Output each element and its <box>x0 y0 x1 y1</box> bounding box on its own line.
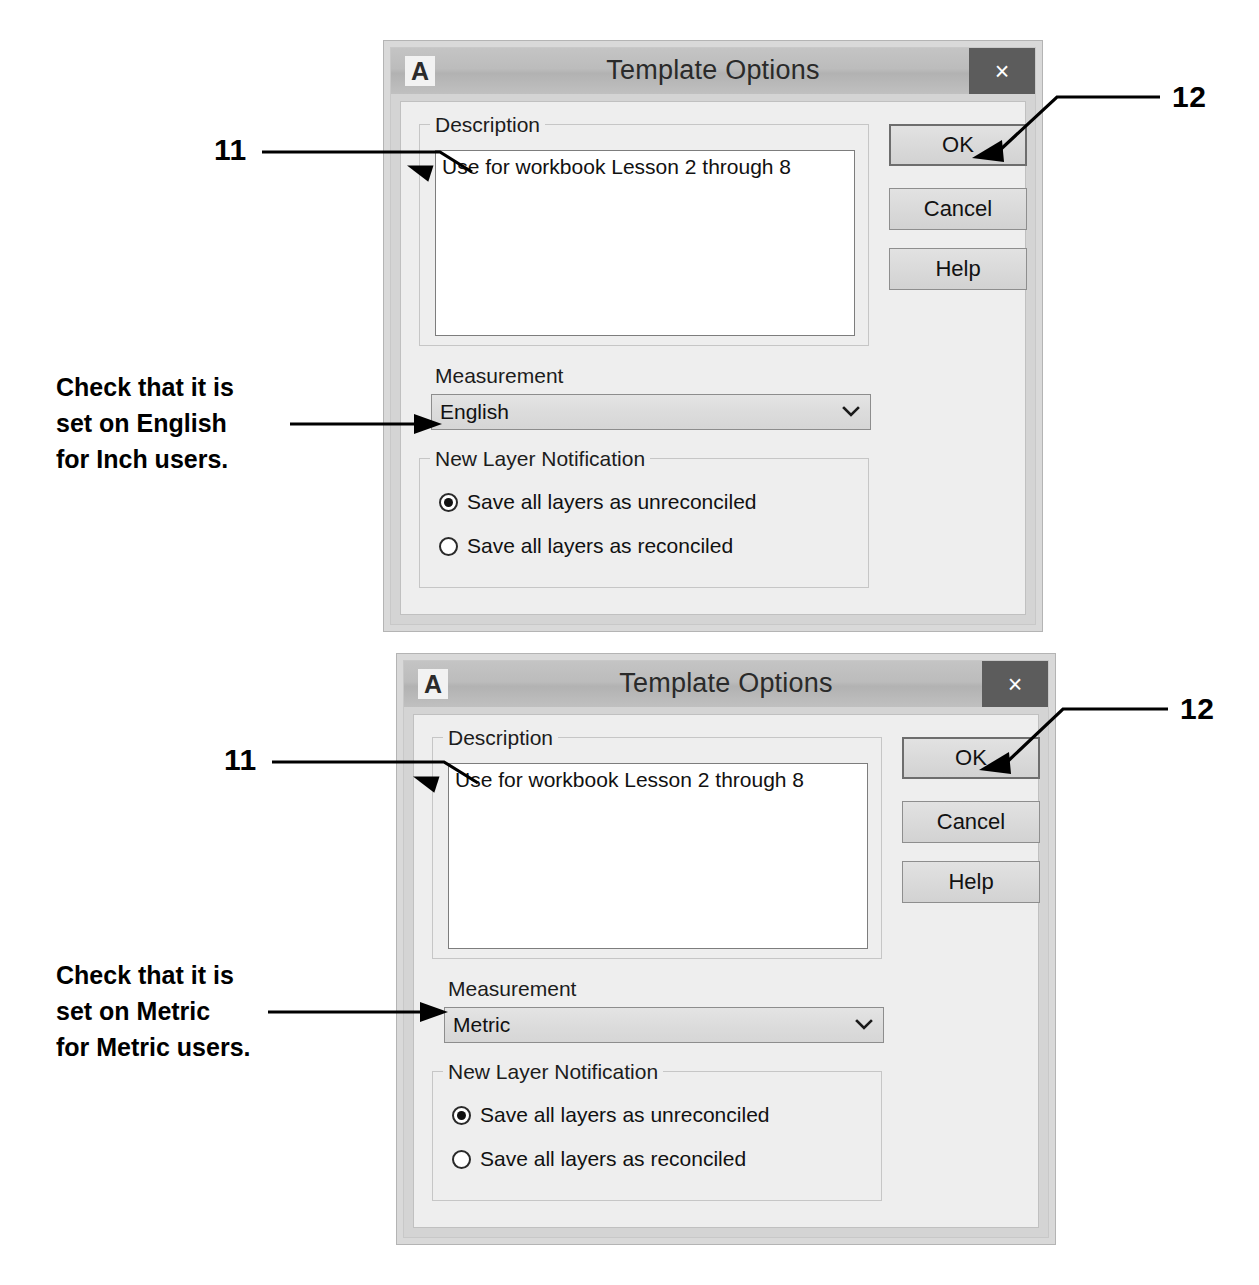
chevron-down-icon <box>855 1018 873 1032</box>
radio-save-reconciled-label: Save all layers as reconciled <box>480 1147 746 1171</box>
dialog-title: Template Options <box>404 668 1048 699</box>
radio-unselected-icon <box>439 537 458 556</box>
callout-number-12-bottom: 12 <box>1180 692 1214 726</box>
measurement-label: Measurement <box>448 977 576 1001</box>
template-options-dialog-english[interactable]: A Template Options × Description Use for… <box>383 40 1043 632</box>
ok-button[interactable]: OK <box>889 124 1027 166</box>
new-layer-notification-group: New Layer Notification <box>419 458 869 588</box>
radio-save-unreconciled-label: Save all layers as unreconciled <box>480 1103 770 1127</box>
dialog-titlebar[interactable]: A Template Options × <box>391 48 1035 94</box>
new-layer-notification-group: New Layer Notification <box>432 1071 882 1201</box>
note-english-line3: for Inch users. <box>56 444 228 475</box>
radio-save-reconciled-label: Save all layers as reconciled <box>467 534 733 558</box>
note-english-line2: set on English <box>56 408 227 439</box>
new-layer-notification-group-label: New Layer Notification <box>443 1060 663 1084</box>
dialog-titlebar[interactable]: A Template Options × <box>404 661 1048 707</box>
note-english-line1: Check that it is <box>56 372 234 403</box>
radio-save-reconciled[interactable]: Save all layers as reconciled <box>439 534 733 558</box>
note-metric-line3: for Metric users. <box>56 1032 251 1063</box>
callout-number-11-top: 11 <box>214 133 247 167</box>
radio-selected-icon <box>439 493 458 512</box>
radio-unselected-icon <box>452 1150 471 1169</box>
help-button[interactable]: Help <box>902 861 1040 903</box>
dialog-title: Template Options <box>391 55 1035 86</box>
help-button[interactable]: Help <box>889 248 1027 290</box>
radio-save-unreconciled[interactable]: Save all layers as unreconciled <box>452 1103 770 1127</box>
description-textarea[interactable]: Use for workbook Lesson 2 through 8 <box>448 763 868 949</box>
measurement-dropdown[interactable]: Metric <box>444 1007 884 1043</box>
description-group-label: Description <box>443 726 558 750</box>
dialog-body: Description Use for workbook Lesson 2 th… <box>413 714 1039 1228</box>
radio-save-reconciled[interactable]: Save all layers as reconciled <box>452 1147 746 1171</box>
close-icon[interactable]: × <box>982 661 1048 707</box>
callout-number-12-top: 12 <box>1172 80 1206 114</box>
dialog-body: Description Use for workbook Lesson 2 th… <box>400 101 1026 615</box>
radio-selected-icon <box>452 1106 471 1125</box>
cancel-button[interactable]: Cancel <box>902 801 1040 843</box>
note-metric-line1: Check that it is <box>56 960 234 991</box>
chevron-down-icon <box>842 405 860 419</box>
radio-save-unreconciled[interactable]: Save all layers as unreconciled <box>439 490 757 514</box>
measurement-value: Metric <box>453 1013 510 1037</box>
measurement-label: Measurement <box>435 364 563 388</box>
note-metric-line2: set on Metric <box>56 996 210 1027</box>
new-layer-notification-group-label: New Layer Notification <box>430 447 650 471</box>
description-group-label: Description <box>430 113 545 137</box>
description-textarea[interactable]: Use for workbook Lesson 2 through 8 <box>435 150 855 336</box>
template-options-dialog-metric[interactable]: A Template Options × Description Use for… <box>396 653 1056 1245</box>
measurement-value: English <box>440 400 509 424</box>
radio-save-unreconciled-label: Save all layers as unreconciled <box>467 490 757 514</box>
measurement-dropdown[interactable]: English <box>431 394 871 430</box>
close-icon[interactable]: × <box>969 48 1035 94</box>
callout-number-11-bottom: 11 <box>224 743 257 777</box>
ok-button[interactable]: OK <box>902 737 1040 779</box>
cancel-button[interactable]: Cancel <box>889 188 1027 230</box>
